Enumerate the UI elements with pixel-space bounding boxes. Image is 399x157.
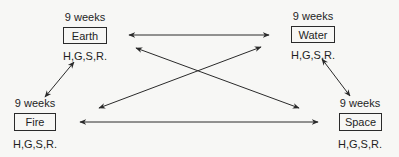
water-node: Water xyxy=(291,26,335,43)
earth-codes: H,G,S,R. xyxy=(61,50,109,62)
water-codes: H,G,S,R. xyxy=(289,49,337,61)
fire-node: Fire xyxy=(14,113,56,131)
arrow-earth-fire xyxy=(45,62,74,97)
fire-duration: 9 weeks xyxy=(13,97,57,109)
fire-codes: H,G,S,R. xyxy=(11,138,59,150)
arrow-fire-water xyxy=(99,47,261,108)
space-codes: H,G,S,R. xyxy=(336,138,384,150)
arrow-water-space xyxy=(322,59,350,96)
connector-layer xyxy=(0,0,399,157)
space-node: Space xyxy=(339,113,382,131)
water-duration: 9 weeks xyxy=(291,10,335,22)
earth-duration: 9 weeks xyxy=(63,11,107,23)
space-duration: 9 weeks xyxy=(338,97,382,109)
earth-node: Earth xyxy=(63,27,107,44)
arrow-earth-space xyxy=(136,48,299,108)
